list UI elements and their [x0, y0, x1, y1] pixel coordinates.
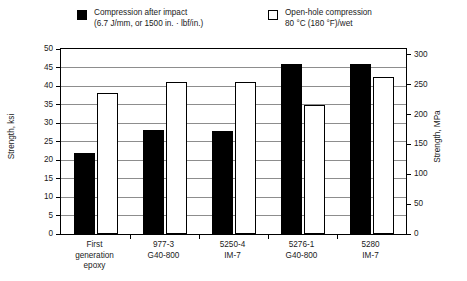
y-axis-tick-label-right: 200 — [414, 111, 428, 119]
y-axis-tick-label-left: 0 — [48, 230, 53, 238]
bar-chart-figure: Compression after impact (6.7 J/mm, or 1… — [0, 0, 467, 281]
y-axis-tick-label-left: 35 — [44, 101, 53, 109]
y-axis-tick-label-right: 150 — [414, 140, 428, 148]
y-axis-title-right: Strength, MPa — [433, 100, 442, 174]
y-axis-tick-right — [406, 204, 411, 205]
bar — [74, 153, 95, 234]
bar-group — [61, 49, 130, 234]
bar — [235, 82, 256, 234]
y-axis-tick-label-left: 30 — [44, 119, 53, 127]
legend-entry-label: Open-hole compression 80 °C (180 °F)/wet — [285, 8, 372, 29]
bar-group — [199, 49, 268, 234]
bar-group — [130, 49, 199, 234]
x-axis-category-label-line: generation — [60, 251, 129, 262]
bar — [97, 93, 118, 234]
y-axis-tick-right — [406, 234, 411, 235]
x-axis-category-label: Firstgenerationepoxy — [60, 240, 129, 272]
x-axis-category-label: 977-3G40-800 — [129, 240, 198, 261]
y-axis-tick-label-left: 25 — [44, 138, 53, 146]
plot-area: 05101520253035404550050100150200250300 — [60, 48, 407, 235]
legend-entry-line2: (6.7 J/mm, or 1500 in. · lbf/in.) — [94, 19, 203, 30]
legend-entry-line1: Open-hole compression — [285, 8, 372, 17]
x-axis-category-label-line: IM-7 — [198, 251, 267, 262]
legend-entry-line2: 80 °C (180 °F)/wet — [285, 19, 372, 30]
x-axis-tick — [337, 234, 338, 239]
y-axis-tick-label-left: 5 — [48, 212, 53, 220]
y-axis-tick-label-left: 45 — [44, 64, 53, 72]
y-axis-tick-right — [406, 144, 411, 145]
x-axis-tick — [130, 234, 131, 239]
x-axis-category-label: 5280IM-7 — [336, 240, 405, 261]
y-axis-tick-label-right: 100 — [414, 170, 428, 178]
hollow-square-swatch-icon — [268, 10, 278, 20]
legend-entry-label: Compression after impact (6.7 J/mm, or 1… — [94, 8, 203, 29]
x-axis-category-label-line: epoxy — [60, 261, 129, 272]
y-axis-tick-label-right: 300 — [414, 51, 428, 59]
bar — [281, 64, 302, 234]
y-axis-tick-right — [406, 84, 411, 85]
legend-entry-open-hole-compression: Open-hole compression 80 °C (180 °F)/wet — [268, 8, 372, 29]
chart-legend: Compression after impact (6.7 J/mm, or 1… — [0, 6, 467, 40]
x-axis-category-label: 5276-1G40-800 — [267, 240, 336, 261]
filled-square-swatch-icon — [77, 10, 87, 20]
x-axis-category-labels: Firstgenerationepoxy977-3G40-8005250-4IM… — [60, 240, 407, 280]
bar — [373, 77, 394, 234]
y-axis-tick-right — [406, 114, 411, 115]
y-axis-tick-label-right: 250 — [414, 81, 428, 89]
bar-group — [268, 49, 337, 234]
x-axis-tick — [268, 234, 269, 239]
y-axis-tick-label-left: 50 — [44, 45, 53, 53]
legend-entry-line1: Compression after impact — [94, 8, 187, 17]
x-axis-category-label-line: 5280 — [336, 240, 405, 251]
x-axis-category-label-line: IM-7 — [336, 251, 405, 262]
bar — [166, 82, 187, 234]
y-axis-tick-right — [406, 54, 411, 55]
y-axis-tick-label-left: 20 — [44, 156, 53, 164]
y-axis-tick-label-right: 0 — [414, 230, 419, 238]
bar — [350, 64, 371, 234]
bar — [143, 130, 164, 234]
bar — [304, 105, 325, 234]
y-axis-title-left: Strength, ksi — [7, 102, 16, 172]
bar-group — [337, 49, 406, 234]
x-axis-category-label-line: G40-800 — [129, 251, 198, 262]
y-axis-tick-label-left: 10 — [44, 193, 53, 201]
x-axis-category-label-line: 977-3 — [129, 240, 198, 251]
y-axis-tick-label-left: 40 — [44, 82, 53, 90]
y-axis-tick-label-right: 50 — [414, 200, 423, 208]
x-axis-category-label-line: First — [60, 240, 129, 251]
y-axis-tick-label-left: 15 — [44, 175, 53, 183]
x-axis-category-label: 5250-4IM-7 — [198, 240, 267, 261]
x-axis-tick — [199, 234, 200, 239]
y-axis-tick-right — [406, 174, 411, 175]
x-axis-category-label-line: 5276-1 — [267, 240, 336, 251]
bar — [212, 131, 233, 234]
x-axis-category-label-line: 5250-4 — [198, 240, 267, 251]
x-axis-category-label-line: G40-800 — [267, 251, 336, 262]
legend-entry-compression-after-impact: Compression after impact (6.7 J/mm, or 1… — [77, 8, 203, 29]
